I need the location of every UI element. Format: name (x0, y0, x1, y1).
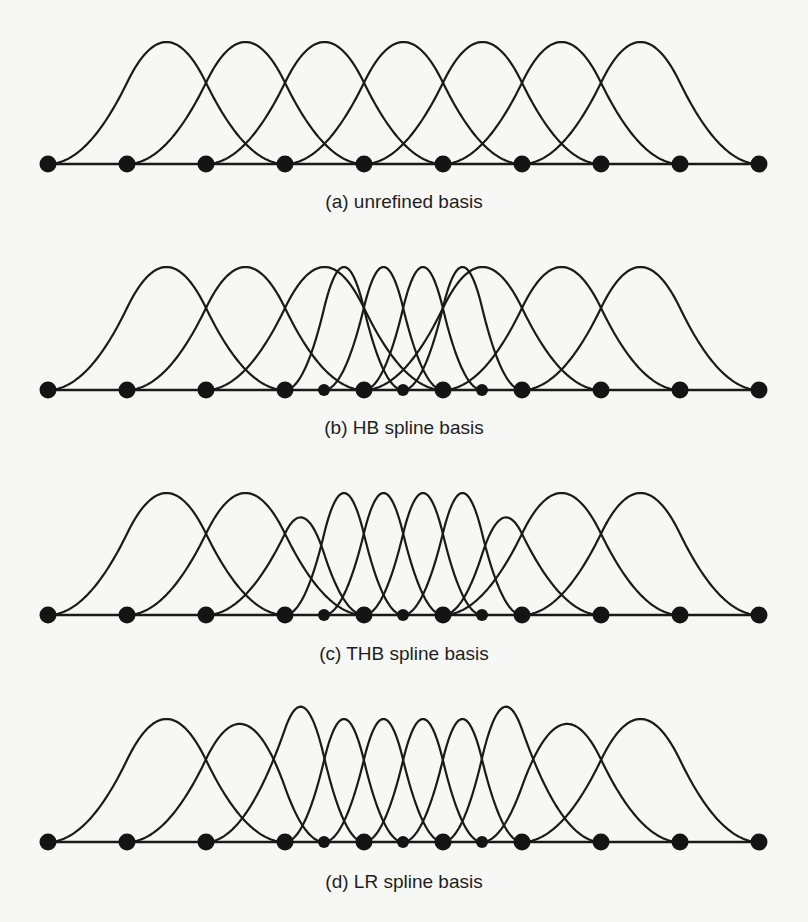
refined-knot-marker (476, 384, 488, 396)
knot-marker (198, 834, 215, 851)
basis-function-curve (522, 719, 759, 842)
knot-marker (751, 607, 768, 624)
refined-knot-marker (397, 836, 409, 848)
basis-function-curve (206, 42, 443, 164)
knot-marker (751, 834, 768, 851)
knot-marker (672, 834, 689, 851)
basis-function-curve (127, 267, 364, 390)
refined-knot-marker (318, 384, 330, 396)
knot-marker (198, 382, 215, 399)
refined-knot-marker (476, 836, 488, 848)
caption-lr-spline-basis: (d) LR spline basis (0, 871, 808, 893)
panel-hb-spline-basis (40, 267, 768, 399)
basis-function-curve (364, 42, 601, 164)
knot-marker (514, 382, 531, 399)
knot-marker (356, 382, 373, 399)
caption-thb-spline-basis: (c) THB spline basis (0, 643, 808, 665)
knot-marker (435, 834, 452, 851)
knot-marker (672, 607, 689, 624)
basis-function-curve (285, 42, 522, 164)
knot-marker (356, 834, 373, 851)
basis-function-curve (522, 493, 759, 615)
knot-marker (40, 156, 57, 173)
knot-marker (40, 382, 57, 399)
basis-function-curve (364, 267, 601, 390)
knot-marker (514, 834, 531, 851)
basis-function-curve (127, 42, 364, 164)
basis-function-curve (127, 493, 364, 615)
panel-unrefined-basis (40, 42, 768, 173)
knot-marker (277, 382, 294, 399)
knot-marker (672, 156, 689, 173)
knot-marker (119, 607, 136, 624)
knot-marker (119, 834, 136, 851)
panel-lr-spline-basis (40, 707, 768, 851)
knot-marker (435, 382, 452, 399)
refined-knot-marker (397, 384, 409, 396)
knot-marker (514, 156, 531, 173)
caption-hb-spline-basis: (b) HB spline basis (0, 417, 808, 439)
knot-marker (119, 156, 136, 173)
knot-marker (198, 156, 215, 173)
caption-unrefined-basis: (a) unrefined basis (0, 191, 808, 213)
knot-marker (40, 834, 57, 851)
refined-knot-marker (318, 609, 330, 621)
basis-function-curve (522, 42, 759, 164)
spline-basis-figure (0, 0, 808, 922)
knot-marker (356, 156, 373, 173)
panel-thb-spline-basis (40, 493, 768, 624)
knot-marker (277, 156, 294, 173)
knot-marker (593, 834, 610, 851)
knot-marker (356, 607, 373, 624)
knot-marker (751, 382, 768, 399)
knot-marker (514, 607, 531, 624)
knot-marker (593, 156, 610, 173)
basis-function-curve (443, 267, 680, 390)
knot-marker (593, 382, 610, 399)
basis-function-curve (443, 493, 680, 615)
basis-function-curve (48, 267, 285, 390)
refined-knot-marker (318, 836, 330, 848)
knot-marker (751, 156, 768, 173)
knot-marker (277, 607, 294, 624)
basis-function-curve (443, 42, 680, 164)
basis-function-curve (48, 493, 285, 615)
knot-marker (672, 382, 689, 399)
basis-function-curve (48, 719, 285, 842)
knot-marker (435, 607, 452, 624)
knot-marker (593, 607, 610, 624)
knot-marker (277, 834, 294, 851)
basis-function-curve (522, 267, 759, 390)
knot-marker (435, 156, 452, 173)
knot-marker (119, 382, 136, 399)
knot-marker (40, 607, 57, 624)
basis-function-curve (127, 724, 324, 842)
knot-marker (198, 607, 215, 624)
refined-knot-marker (476, 609, 488, 621)
basis-function-curve (482, 724, 680, 842)
basis-function-curve (48, 42, 285, 164)
refined-knot-marker (397, 609, 409, 621)
